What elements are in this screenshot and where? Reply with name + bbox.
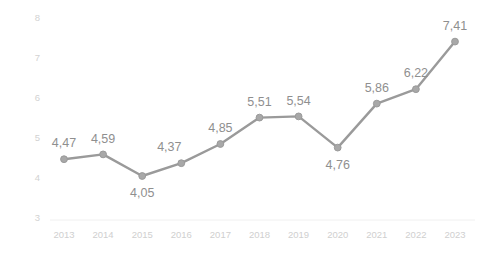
data-point-label: 4,76 xyxy=(326,158,350,172)
data-point-marker xyxy=(178,160,185,167)
x-axis-tick-label: 2020 xyxy=(327,229,348,240)
data-point-marker xyxy=(413,86,420,93)
data-point-label: 4,37 xyxy=(157,140,181,154)
x-axis-tick-label: 2015 xyxy=(132,229,153,240)
data-point-label: 5,86 xyxy=(365,81,389,95)
y-axis-tick-label: 8 xyxy=(35,12,40,23)
data-point-marker xyxy=(217,141,224,148)
data-point-label: 5,51 xyxy=(247,95,271,109)
data-point-label: 7,41 xyxy=(443,19,467,33)
data-point-label: 5,54 xyxy=(286,94,310,108)
y-axis-tick-labels: 345678 xyxy=(35,12,40,223)
y-axis-tick-label: 6 xyxy=(35,92,40,103)
data-point-label: 4,05 xyxy=(130,186,154,200)
x-axis-tick-label: 2019 xyxy=(288,229,309,240)
x-axis-tick-label: 2023 xyxy=(444,229,465,240)
data-point-marker xyxy=(139,173,146,180)
data-point-marker xyxy=(334,144,341,151)
data-point-label: 4,85 xyxy=(208,121,232,135)
x-axis-tick-label: 2021 xyxy=(366,229,387,240)
data-point-label: 4,47 xyxy=(52,136,76,150)
data-point-marker xyxy=(452,38,459,45)
x-axis-tick-label: 2013 xyxy=(53,229,74,240)
x-axis-tick-label: 2016 xyxy=(171,229,192,240)
x-axis-tick-labels: 2013201420152016201720182019202020212022… xyxy=(53,229,465,240)
point-label-group: 4,474,594,054,374,855,515,544,765,866,22… xyxy=(52,19,467,200)
data-point-marker xyxy=(373,100,380,107)
x-axis-tick-label: 2017 xyxy=(210,229,231,240)
x-axis-tick-label: 2018 xyxy=(249,229,270,240)
x-axis-tick-label: 2014 xyxy=(93,229,114,240)
line-chart: 345678 4,474,594,054,374,855,515,544,765… xyxy=(0,0,487,258)
data-point-marker xyxy=(295,113,302,120)
y-axis-tick-label: 7 xyxy=(35,52,40,63)
y-axis-tick-label: 4 xyxy=(35,172,40,183)
x-axis-tick-label: 2022 xyxy=(405,229,426,240)
y-axis-tick-label: 5 xyxy=(35,132,40,143)
data-point-label: 4,59 xyxy=(91,132,115,146)
data-point-marker xyxy=(100,151,107,158)
chart-canvas: 345678 4,474,594,054,374,855,515,544,765… xyxy=(0,0,487,258)
data-point-marker xyxy=(256,114,263,121)
data-point-label: 6,22 xyxy=(404,66,428,80)
y-axis-tick-label: 3 xyxy=(35,212,40,223)
data-point-marker xyxy=(61,156,68,163)
